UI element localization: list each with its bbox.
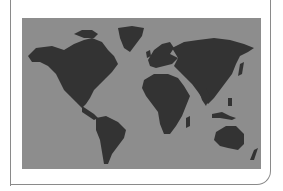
indonesia <box>212 112 236 120</box>
europe <box>148 42 178 68</box>
south-america <box>96 116 126 164</box>
africa <box>142 74 190 134</box>
world-map[interactable] <box>22 18 261 169</box>
greenland <box>118 26 144 52</box>
world-map-graphic <box>22 18 261 169</box>
canadian-arctic-islands <box>74 30 98 38</box>
central-america <box>82 106 98 120</box>
japan <box>238 62 244 76</box>
madagascar <box>186 116 190 128</box>
australia <box>214 126 244 150</box>
philippines <box>228 98 232 106</box>
north-america <box>28 38 118 108</box>
new-zealand <box>250 148 258 160</box>
